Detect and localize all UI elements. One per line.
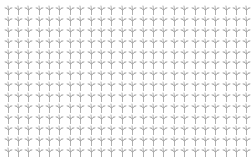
bare-tree-icon <box>107 136 116 146</box>
tree-glyph-cell <box>242 59 252 69</box>
tree-glyph-cell <box>65 125 75 135</box>
bare-tree-icon <box>180 49 189 59</box>
bare-tree-icon <box>180 92 189 102</box>
bare-tree-icon <box>107 59 116 69</box>
tree-glyph-cell <box>86 16 96 26</box>
tree-glyph-cell <box>45 16 55 26</box>
bare-tree-icon <box>87 70 96 80</box>
bare-tree-icon <box>107 92 116 102</box>
bare-tree-icon <box>66 27 75 37</box>
tree-glyph-cell <box>159 125 169 135</box>
bare-tree-icon <box>35 136 44 146</box>
tree-glyph-cell <box>97 125 107 135</box>
tree-glyph-cell <box>86 27 96 37</box>
tree-glyph-cell <box>45 38 55 48</box>
tree-glyph-cell <box>180 114 190 124</box>
bare-tree-icon <box>180 16 189 26</box>
bare-tree-icon <box>14 114 23 124</box>
tree-glyph-cell <box>65 5 75 15</box>
tree-glyph-cell <box>232 92 242 102</box>
tree-glyph-cell <box>86 70 96 80</box>
bare-tree-icon <box>128 125 137 135</box>
tree-glyph-cell <box>211 27 221 37</box>
bare-tree-icon <box>149 49 158 59</box>
bare-tree-icon <box>211 49 220 59</box>
bare-tree-icon <box>87 114 96 124</box>
bare-tree-icon <box>201 38 210 48</box>
tree-glyph-cell <box>190 92 200 102</box>
tree-glyph-cell <box>3 5 13 15</box>
bare-tree-icon <box>87 16 96 26</box>
tree-glyph-cell <box>97 92 107 102</box>
tree-glyph-cell <box>76 147 86 157</box>
bare-tree-icon <box>170 5 179 15</box>
tree-glyph-cell <box>159 147 169 157</box>
bare-tree-icon <box>149 16 158 26</box>
tree-glyph-cell <box>45 92 55 102</box>
bare-tree-icon <box>128 5 137 15</box>
tree-glyph-cell <box>128 38 138 48</box>
bare-tree-icon <box>4 136 13 146</box>
tree-glyph-cell <box>45 81 55 91</box>
tree-glyph-cell <box>211 114 221 124</box>
tree-glyph-cell <box>117 16 127 26</box>
tree-glyph-cell <box>138 38 148 48</box>
tree-glyph-cell <box>200 16 210 26</box>
tree-glyph-cell <box>107 81 117 91</box>
tree-glyph-cell <box>148 5 158 15</box>
tree-glyph-cell <box>107 114 117 124</box>
bare-tree-icon <box>14 125 23 135</box>
tree-glyph-cell <box>232 38 242 48</box>
bare-tree-icon <box>170 16 179 26</box>
tree-glyph-cell <box>148 92 158 102</box>
bare-tree-icon <box>201 5 210 15</box>
bare-tree-icon <box>35 38 44 48</box>
bare-tree-icon <box>76 136 85 146</box>
tree-glyph-cell <box>190 70 200 80</box>
bare-tree-icon <box>4 70 13 80</box>
tree-glyph-cell <box>242 125 252 135</box>
tree-glyph-cell <box>180 49 190 59</box>
tree-glyph-cell <box>159 27 169 37</box>
tree-glyph-cell <box>107 147 117 157</box>
tree-glyph-cell <box>138 125 148 135</box>
bare-tree-icon <box>191 114 200 124</box>
tree-glyph-cell <box>117 49 127 59</box>
bare-tree-icon <box>87 125 96 135</box>
bare-tree-icon <box>4 125 13 135</box>
bare-tree-icon <box>222 70 231 80</box>
tree-glyph-cell <box>128 16 138 26</box>
bare-tree-icon <box>191 59 200 69</box>
tree-glyph-cell <box>13 38 23 48</box>
tree-glyph-cell <box>211 38 221 48</box>
bare-tree-icon <box>201 81 210 91</box>
bare-tree-icon <box>180 70 189 80</box>
tree-glyph-cell <box>159 103 169 113</box>
tree-glyph-cell <box>148 70 158 80</box>
bare-tree-icon <box>87 59 96 69</box>
tree-glyph-cell <box>117 27 127 37</box>
bare-tree-icon <box>55 59 64 69</box>
tree-glyph-cell <box>97 27 107 37</box>
tree-glyph-cell <box>138 136 148 146</box>
tree-glyph-cell <box>200 147 210 157</box>
bare-tree-icon <box>76 125 85 135</box>
bare-tree-icon <box>201 70 210 80</box>
tree-glyph-cell <box>232 49 242 59</box>
bare-tree-icon <box>180 59 189 69</box>
bare-tree-icon <box>191 136 200 146</box>
bare-tree-icon <box>76 49 85 59</box>
bare-tree-icon <box>211 38 220 48</box>
bare-tree-icon <box>4 147 13 157</box>
tree-glyph-cell <box>200 92 210 102</box>
bare-tree-icon <box>97 125 106 135</box>
tree-glyph-cell <box>65 27 75 37</box>
tree-glyph-cell <box>180 5 190 15</box>
tree-glyph-cell <box>65 114 75 124</box>
tree-glyph-cell <box>97 5 107 15</box>
tree-glyph-cell <box>128 49 138 59</box>
bare-tree-icon <box>149 125 158 135</box>
bare-tree-icon <box>24 59 33 69</box>
bare-tree-icon <box>170 125 179 135</box>
bare-tree-icon <box>35 125 44 135</box>
